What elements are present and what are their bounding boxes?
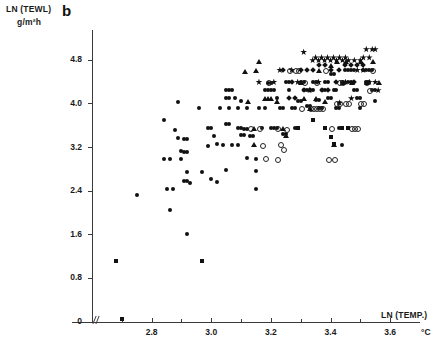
data-point-circle-filled [370,88,374,92]
data-point-circle-open [329,126,335,132]
data-point-star-filled [372,79,379,86]
data-point-star-filled [270,79,277,86]
y-axis-tick [88,103,93,104]
y-axis-tick [88,278,93,279]
y-axis-title: LN (TEWL) [6,4,51,14]
data-point-circle-open [311,106,317,112]
data-point-circle-open [332,157,338,163]
data-point-diamond-filled [322,62,328,68]
data-point-circle-filled [305,88,309,92]
data-point-circle-filled [302,80,306,84]
data-point-square-filled [200,259,204,263]
data-point-diamond-filled [343,62,349,68]
x-axis-minor-tick [241,319,242,323]
x-axis-minor-tick [122,319,123,323]
data-point-circle-open [293,68,299,74]
data-point-star-filled [312,54,319,61]
data-point-circle-open [314,80,320,86]
x-axis-tick-label: 2.8 [137,327,167,337]
data-point-star-filled [345,57,352,64]
x-axis-line [72,322,420,323]
data-point-circle-open [320,106,326,112]
data-point-circle-open [317,106,323,112]
data-point-circle-filled [248,134,252,138]
data-point-circle-filled [320,88,324,92]
data-point-triangle-filled [274,99,280,104]
data-point-circle-filled [254,157,258,161]
data-point-star-filled [363,46,370,53]
data-point-circle-open [361,101,367,107]
data-point-diamond-filled [301,87,307,93]
data-point-triangle-filled [253,68,259,73]
data-point-circle-open [284,127,290,133]
data-point-circle-filled [236,106,240,110]
data-point-circle-filled [299,80,303,84]
data-point-circle-filled [317,106,321,110]
data-point-circle-open [326,157,332,163]
data-point-star-filled [315,57,322,64]
data-point-circle-filled [296,99,300,103]
data-point-circle-open [323,68,329,74]
data-point-star-filled [309,57,316,64]
data-point-circle-open [275,157,281,163]
data-point-square-filled [332,142,336,146]
data-point-star-filled [306,87,313,94]
x-axis-tick [331,318,332,323]
data-point-diamond-filled [292,96,298,102]
data-point-circle-filled [337,106,341,110]
data-point-star-filled [360,54,367,61]
data-point-circle-open [260,143,266,149]
data-point-circle-filled [364,68,368,72]
data-point-triangle-filled [370,59,376,64]
data-point-triangle-filled [340,80,346,85]
data-point-circle-filled [257,106,261,110]
data-point-circle-filled [317,98,321,102]
data-point-circle-filled [340,143,344,147]
data-point-circle-filled [337,126,341,130]
data-point-circle-filled [215,180,219,184]
data-point-star-filled [357,57,364,64]
data-point-circle-open [355,126,361,132]
data-point-circle-filled [224,88,228,92]
data-point-diamond-filled [334,79,340,85]
data-point-circle-filled [269,126,273,130]
x-axis-tick-label: 3.0 [196,327,226,337]
data-point-star-filled [288,67,295,74]
y-axis-tick [88,147,93,148]
data-point-circle-filled [281,132,285,136]
x-axis-minor-tick [181,319,182,323]
data-point-circle-filled [269,88,273,92]
data-point-square-filled [323,126,327,130]
data-point-circle-filled [326,80,330,84]
data-point-star-filled [330,54,337,61]
data-point-diamond-filled [360,62,366,68]
data-point-diamond-filled [280,67,286,73]
data-point-star-filled [336,99,343,106]
data-point-circle-filled [287,88,291,92]
data-point-circle-filled [209,126,213,130]
data-point-circle-open [296,68,302,74]
data-point-diamond-filled [352,79,358,85]
data-point-circle-filled [168,157,172,161]
data-point-circle-filled [197,106,201,110]
data-point-triangle-filled [349,80,355,85]
data-point-circle-open [337,101,343,107]
x-axis-tick [211,318,212,323]
data-point-triangle-filled [343,59,349,64]
data-point-star-filled [375,87,382,94]
data-point-circle-filled [173,128,177,132]
data-point-diamond-filled [289,79,295,85]
data-point-circle-filled [326,96,330,100]
y-axis-tick [88,322,93,323]
data-point-diamond-filled [298,67,304,73]
data-point-star-filled [276,67,283,74]
data-point-circle-filled [239,133,243,137]
data-point-triangle-filled [358,59,364,64]
data-point-triangle-filled [313,96,319,101]
data-point-circle-filled [367,68,371,72]
data-point-circle-filled [182,137,186,141]
data-point-circle-filled [320,106,324,110]
data-point-triangle-filled [251,142,257,147]
data-point-circle-filled [227,106,231,110]
data-point-circle-filled [275,96,279,100]
